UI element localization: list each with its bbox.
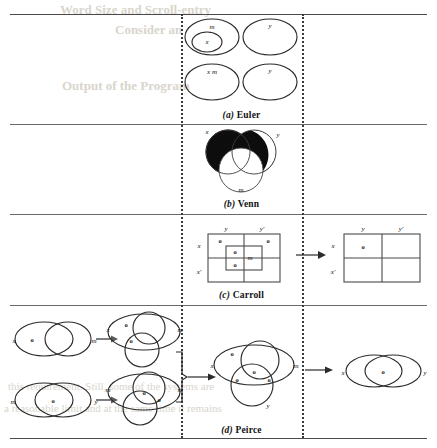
carroll-right-row-label-xp: x' — [330, 268, 336, 276]
peirce-p1x-label-m: m — [177, 326, 182, 334]
caption-carroll-letter: (c) — [219, 290, 230, 300]
peirce-p2-label-m: m — [10, 398, 15, 406]
peirce-p1-ellipse-x — [15, 322, 73, 356]
peirce-p2-ellipse-y — [35, 383, 91, 417]
peirce-comb-circle-upper — [241, 341, 279, 379]
carroll-right-row-label-x: x — [330, 242, 335, 250]
caption-peirce: (d) Peirce — [181, 425, 302, 435]
peirce-comb-mark-o-4: o — [267, 376, 270, 383]
caption-euler-letter: (a) — [223, 110, 235, 120]
peirce-p1x-mark-o-2: o — [129, 337, 132, 344]
euler-diagram-group: m x y x m y — [181, 14, 302, 106]
carroll-left-col-label-yp: y' — [259, 225, 265, 233]
carroll-left-diagram: y y' x x' o o o o m — [186, 226, 296, 284]
carroll-right-mark-top-left: o — [361, 243, 364, 250]
carroll-left-col-label-y: y — [223, 225, 228, 233]
peirce-comb-label-y: y — [265, 402, 270, 410]
euler-label-x: x — [204, 38, 209, 46]
carroll-right-col-label-yp: y' — [398, 225, 404, 233]
caption-venn-letter: (b) — [224, 199, 236, 209]
peirce-p1-mark-o: o — [30, 336, 33, 343]
carroll-left-row-label-x: x — [196, 242, 201, 250]
euler-label-y-bottom: y — [267, 67, 272, 75]
caption-venn: (b) Venn — [181, 199, 302, 209]
carroll-left-mark-outer-top-left: o — [218, 237, 221, 244]
figure-sheet: m x y x m y (a) Euler — [0, 0, 437, 448]
caption-peirce-letter: (d) — [221, 425, 233, 435]
peirce-p1x-circle-upper — [133, 312, 165, 344]
peirce-concl-mark-o: o — [381, 368, 384, 375]
peirce-p2x-mark-o-1: o — [142, 389, 145, 396]
caption-euler: (a) Euler — [181, 110, 302, 120]
peirce-conclusion: x y o — [336, 349, 430, 393]
caption-peirce-name: Peirce — [235, 425, 261, 435]
peirce-premise-2-expanded: m m o o — [104, 370, 184, 428]
peirce-comb-label-m: m — [293, 362, 298, 370]
peirce-comb-mark-o-2: o — [252, 368, 255, 375]
peirce-premise-1: x m o — [8, 316, 100, 362]
venn-label-x: x — [204, 128, 209, 136]
venn-diagram-group: x y m — [188, 128, 296, 194]
peirce-p2-mark-o: o — [51, 397, 54, 404]
peirce-comb-mark-o-1: o — [230, 350, 233, 357]
peirce-concl-label-x: x — [340, 369, 345, 377]
venn-label-m: m — [238, 186, 243, 194]
carroll-right-diagram: y y' x x' o — [316, 226, 428, 284]
carroll-left-mark-inner-top-left: o — [233, 248, 236, 255]
rule-venn-carroll — [10, 214, 427, 215]
peirce-arrow-4 — [305, 364, 333, 376]
carroll-left-mark-inner-bottom-left: o — [233, 261, 236, 268]
euler-label-m: m — [209, 23, 214, 31]
peirce-combined: x m y o o o o — [206, 338, 300, 414]
peirce-premise-1-expanded: x m o o — [104, 310, 184, 372]
carroll-left-row-label-xp: x' — [196, 268, 202, 276]
carroll-right-col-label-y: y — [360, 225, 365, 233]
peirce-comb-mark-o-3: o — [235, 376, 238, 383]
rule-bottom — [10, 438, 427, 439]
peirce-brace — [174, 352, 188, 402]
caption-venn-name: Venn — [238, 199, 260, 209]
peirce-concl-label-y: y — [422, 369, 427, 377]
caption-carroll-name: Carroll — [233, 290, 264, 300]
caption-euler-name: Euler — [237, 110, 261, 120]
peirce-premise-2: m y o — [8, 377, 100, 423]
peirce-p1-ellipse-m — [45, 322, 91, 356]
peirce-comb-ellipse-outer — [214, 345, 294, 385]
venn-label-y: y — [275, 131, 280, 139]
peirce-p2x-label-left: m — [105, 386, 110, 394]
carroll-left-inner-center-label-m: m — [247, 254, 252, 262]
euler-label-y-top: y — [267, 22, 272, 30]
peirce-p1x-mark-o-1: o — [124, 321, 127, 328]
rule-euler-venn — [10, 124, 427, 125]
rule-carroll-peirce — [10, 305, 427, 306]
column-separator-right — [302, 14, 304, 438]
peirce-p2x-mark-o-2: o — [157, 396, 160, 403]
carroll-left-mark-outer-top-right: o — [266, 237, 269, 244]
peirce-p1x-ellipse-outer — [108, 314, 180, 350]
caption-carroll: (c) Carroll — [181, 290, 302, 300]
euler-label-xm: x m — [206, 68, 217, 76]
